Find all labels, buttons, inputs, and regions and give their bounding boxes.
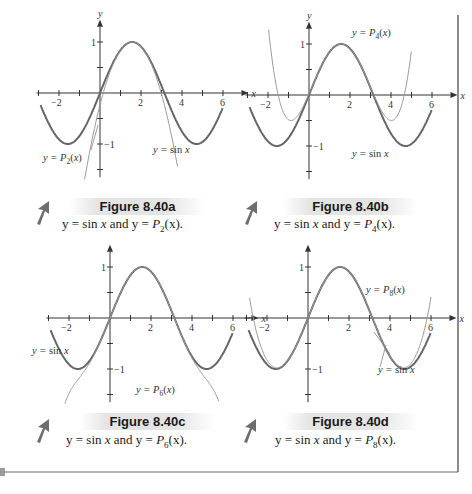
y-tick-label: −1	[312, 364, 323, 375]
x-tick-label: 6	[429, 99, 434, 110]
taylor-poly-curve	[85, 42, 178, 179]
x-tick-label: 4	[189, 322, 194, 333]
rule-end-marker	[0, 468, 5, 476]
y-axis-arrow-icon	[305, 245, 311, 252]
chart-panel-b: xy−22461−1y = P4(x)y = sin x	[245, 10, 465, 179]
caption-text: y = sin	[274, 216, 313, 231]
curve-annotation: y = sin x	[31, 345, 69, 356]
caption-var: P	[156, 432, 164, 447]
x-tick-label: −2	[260, 99, 271, 110]
x-tick-label: −2	[51, 97, 62, 108]
arrow-pointer-icon[interactable]	[33, 418, 53, 444]
x-tick-label: −2	[61, 322, 72, 333]
y-tick-label: 1	[299, 262, 304, 273]
y-axis-label: y	[97, 8, 103, 19]
x-tick-label: 2	[346, 322, 351, 333]
caption-text: (x).	[165, 216, 183, 231]
caption-text: and y =	[319, 216, 365, 231]
curve-annotation: y = sin x	[152, 144, 190, 155]
x-tick-label: 6	[220, 97, 225, 108]
x-axis-label: x	[250, 88, 256, 99]
x-tick-label: 4	[179, 97, 184, 108]
y-axis-arrow-icon	[97, 20, 103, 27]
figure-title-a: Figure 8.40a	[70, 198, 205, 215]
y-tick-label: 1	[300, 39, 305, 50]
x-tick-label: 6	[428, 322, 433, 333]
arrow-pointer-icon[interactable]	[240, 418, 260, 444]
chart-panel-a: xy−22461−1y = P2(x)y = sin x	[36, 8, 256, 180]
y-tick-label: −1	[313, 141, 324, 152]
figure-title-b: Figure 8.40b	[283, 198, 418, 215]
curve-annotation: y = sin x	[351, 148, 389, 159]
caption-text: and y =	[320, 432, 366, 447]
curve-annotation: y = P2(x)	[42, 152, 82, 166]
x-tick-label: 2	[347, 99, 352, 110]
x-axis-arrow-icon	[449, 315, 456, 321]
x-axis-label: x	[458, 313, 464, 324]
caption-text: (x).	[169, 432, 187, 447]
y-tick-label: −1	[104, 139, 115, 150]
arrow-pointer-icon[interactable]	[241, 200, 261, 226]
x-axis-arrow-icon	[450, 92, 457, 98]
x-tick-label: 2	[148, 322, 153, 333]
figure-title-d: Figure 8.40d	[283, 413, 418, 430]
taylor-poly-curve	[250, 267, 431, 368]
x-tick-label: 4	[387, 322, 392, 333]
figure-title-c: Figure 8.40c	[80, 413, 215, 430]
curve-annotation: y = P8(x)	[365, 284, 405, 298]
curve-annotation: y = sin x	[377, 364, 415, 375]
caption-text: y = sin	[275, 432, 314, 447]
curve-annotation: y = P4(x)	[351, 27, 391, 41]
caption-var: P	[365, 432, 373, 447]
figure-caption-c: y = sin x and y = P6(x).	[66, 432, 187, 450]
x-tick-label: 4	[388, 99, 393, 110]
figure-caption-a: y = sin x and y = P2(x).	[62, 216, 183, 234]
y-tick-label: 1	[101, 262, 106, 273]
y-axis-arrow-icon	[306, 22, 312, 29]
y-tick-label: 1	[91, 37, 96, 48]
caption-text: (x).	[377, 216, 395, 231]
x-tick-label: −2	[259, 322, 270, 333]
x-tick-label: 2	[138, 97, 143, 108]
y-axis-arrow-icon	[107, 245, 113, 252]
arrow-pointer-icon[interactable]	[33, 200, 53, 226]
caption-text: and y =	[107, 216, 153, 231]
x-tick-label: 6	[230, 322, 235, 333]
curve-annotation: y = P6(x)	[135, 384, 175, 398]
y-tick-label: −1	[114, 364, 125, 375]
caption-text: y = sin	[66, 432, 105, 447]
caption-text: (x).	[378, 432, 396, 447]
figure-caption-d: y = sin x and y = P8(x).	[275, 432, 396, 450]
caption-text: y = sin	[62, 216, 101, 231]
chart-panel-c: x−22461−1y = sin xy = P6(x)	[31, 245, 266, 404]
caption-var: P	[364, 216, 372, 231]
caption-var: P	[152, 216, 160, 231]
x-axis-label: x	[459, 90, 465, 101]
figure-caption-b: y = sin x and y = P4(x).	[274, 216, 395, 234]
y-axis-label: y	[306, 10, 312, 21]
chart-panel-d: x−22461−1y = P8(x)y = sin x	[244, 245, 464, 402]
caption-text: and y =	[111, 432, 157, 447]
